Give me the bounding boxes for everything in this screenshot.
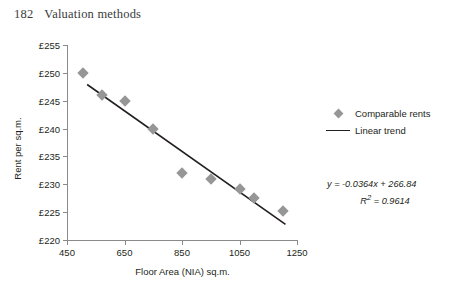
- legend-item-comparable-rents: Comparable rents: [325, 105, 450, 122]
- regression-equation: y = -0.0364x + 266.84: [327, 178, 449, 191]
- diamond-marker-icon: [325, 110, 351, 117]
- legend-item-linear-trend: Linear trend: [325, 122, 450, 139]
- line-marker-icon: [325, 130, 351, 132]
- regression-annotation: y = -0.0364x + 266.84 R2 = 0.9614: [327, 178, 449, 208]
- trend-line-svg: [0, 0, 453, 296]
- book-page: 182Valuation methods £220£225£230£235£24…: [0, 0, 453, 296]
- chart-legend: Comparable rents Linear trend: [325, 105, 450, 139]
- linear-trend-line: [87, 84, 285, 224]
- legend-label: Linear trend: [351, 125, 406, 136]
- legend-label: Comparable rents: [351, 108, 431, 119]
- scatter-chart-figure: £220£225£230£235£240£245£250£255 4506508…: [0, 0, 453, 296]
- r-squared-value: R2 = 0.9614: [327, 191, 449, 208]
